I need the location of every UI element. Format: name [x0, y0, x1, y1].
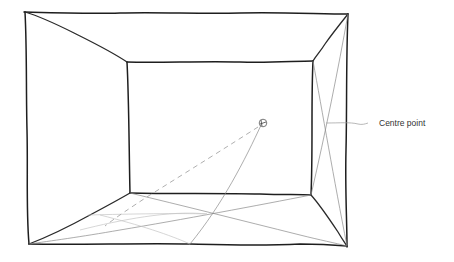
- floor-guide-line-2: [80, 213, 207, 230]
- outer-frame-right-edge: [346, 14, 348, 247]
- floor-diagonal-1: [130, 193, 347, 246]
- right-wall-diagonal-1: [313, 61, 347, 246]
- floor-centre-vertical: [190, 123, 262, 244]
- back-wall-bottom-edge: [130, 193, 311, 195]
- back-wall-left-edge: [127, 62, 130, 193]
- outer-frame-top-edge: [24, 12, 348, 14]
- outer-frame-bottom-edge: [29, 244, 347, 246]
- floor-guide-line-1: [88, 214, 207, 215]
- top-right-receding-edge: [313, 14, 348, 61]
- centre-point-label: Centre point: [379, 118, 426, 128]
- floor-diagonal-2: [29, 195, 311, 244]
- back-wall-right-edge: [311, 61, 313, 195]
- back-wall-top-edge: [127, 61, 313, 62]
- outer-frame-left-edge: [25, 12, 29, 244]
- perspective-room-sketch: Centre point: [0, 0, 454, 262]
- right-wall-diagonal-2: [311, 14, 348, 195]
- bottom-right-receding-edge: [311, 195, 347, 246]
- top-left-receding-edge: [25, 12, 127, 62]
